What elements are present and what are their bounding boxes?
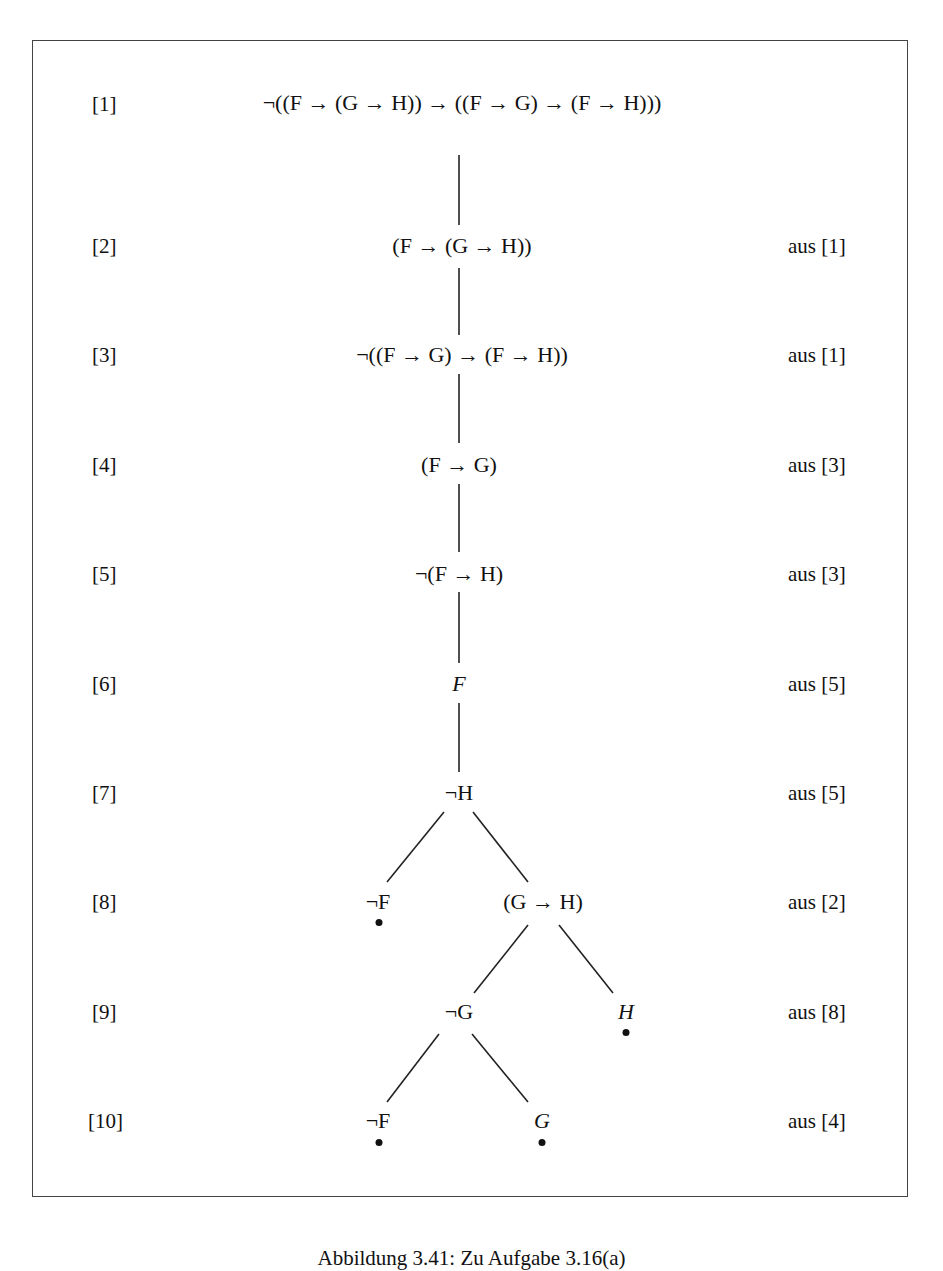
rule-source: aus [5] xyxy=(788,672,846,697)
row-label: [4] xyxy=(92,453,152,478)
formula-node: ¬F xyxy=(366,889,391,915)
rule-source: aus [8] xyxy=(788,1000,846,1025)
formula-node: (F → (G → H)) xyxy=(392,233,531,259)
formula-node: F xyxy=(452,671,465,697)
formula-node: (F → G) xyxy=(421,452,497,478)
formula-node: ¬F xyxy=(366,1108,391,1134)
closed-branch-dot-icon xyxy=(376,919,383,926)
figure-caption: Abbildung 3.41: Zu Aufgabe 3.16(a) xyxy=(0,1246,943,1271)
formula-node: ¬((F → (G → H)) → ((F → G) → (F → H))) xyxy=(263,90,662,116)
formula-node: (G → H) xyxy=(503,889,582,915)
row-label: [10] xyxy=(88,1109,148,1134)
rule-source: aus [1] xyxy=(788,234,846,259)
rule-source: aus [2] xyxy=(788,890,846,915)
row-label: [8] xyxy=(92,890,152,915)
rule-source: aus [5] xyxy=(788,781,846,806)
row-label: [7] xyxy=(92,781,152,806)
rule-source: aus [4] xyxy=(788,1109,846,1134)
row-label: [1] xyxy=(92,92,152,117)
formula-node: ¬((F → G) → (F → H)) xyxy=(356,342,568,368)
formula-node: H xyxy=(618,999,634,1025)
rule-source: aus [1] xyxy=(788,343,846,368)
closed-branch-dot-icon xyxy=(623,1029,630,1036)
row-label: [9] xyxy=(92,1000,152,1025)
row-label: [5] xyxy=(92,562,152,587)
formula-node: ¬(F → H) xyxy=(415,561,503,587)
rule-source: aus [3] xyxy=(788,453,846,478)
formula-node: ¬G xyxy=(445,999,473,1025)
closed-branch-dot-icon xyxy=(376,1139,383,1146)
row-label: [2] xyxy=(92,234,152,259)
formula-node: ¬H xyxy=(445,780,473,806)
rule-source: aus [3] xyxy=(788,562,846,587)
row-label: [6] xyxy=(92,672,152,697)
row-label: [3] xyxy=(92,343,152,368)
closed-branch-dot-icon xyxy=(539,1139,546,1146)
formula-node: G xyxy=(534,1108,550,1134)
